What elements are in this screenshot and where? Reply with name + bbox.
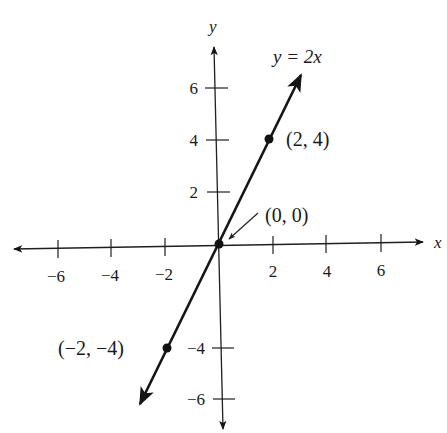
point-2-4	[265, 135, 274, 144]
svg-text:6: 6	[190, 79, 199, 98]
svg-text:2: 2	[190, 183, 199, 202]
svg-text:−4: −4	[101, 266, 120, 285]
origin-pointer-arrow	[229, 213, 258, 239]
svg-text:−6: −6	[47, 267, 65, 286]
svg-text:4: 4	[190, 131, 199, 150]
point-origin-label: (0, 0)	[265, 204, 308, 227]
svg-text:−2: −2	[155, 265, 173, 284]
svg-text:2: 2	[269, 262, 278, 281]
point-neg2-neg4	[163, 344, 172, 353]
line-graph: x y −6 −4 −2 2 4 6 6 4 2 −4 −6 y = 2x (2…	[0, 0, 447, 433]
point-origin	[215, 240, 224, 249]
equation-label: y = 2x	[271, 46, 322, 67]
point-neg2-neg4-label: (−2, −4)	[58, 337, 124, 360]
x-tick-labels: −6 −4 −2 2 4 6	[47, 261, 385, 286]
point-2-4-label: (2, 4)	[286, 128, 329, 151]
x-axis-label: x	[433, 233, 442, 252]
y-tick-labels: 6 4 2 −4 −6	[187, 79, 206, 409]
svg-text:−4: −4	[187, 339, 206, 358]
line-y-equals-2x	[140, 75, 301, 404]
svg-text:−6: −6	[187, 390, 205, 409]
svg-text:4: 4	[323, 262, 332, 281]
y-axis-label: y	[207, 17, 217, 36]
svg-text:6: 6	[377, 261, 386, 280]
